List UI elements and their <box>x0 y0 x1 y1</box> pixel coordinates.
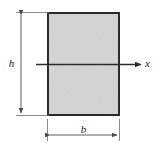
x-axis-label: x <box>145 58 158 69</box>
height-dimension-label: h <box>5 58 18 69</box>
figure-canvas: h b x <box>0 0 161 149</box>
width-dimension-label: b <box>77 124 90 135</box>
